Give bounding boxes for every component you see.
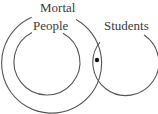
- venn-diagram: Mortal People Students: [0, 0, 158, 114]
- people-label: People: [33, 18, 69, 33]
- element-point: [95, 58, 99, 62]
- mortal-label: Mortal: [40, 0, 76, 15]
- people-circle: [14, 33, 80, 95]
- students-circle: [93, 35, 158, 96]
- students-label: Students: [104, 18, 149, 33]
